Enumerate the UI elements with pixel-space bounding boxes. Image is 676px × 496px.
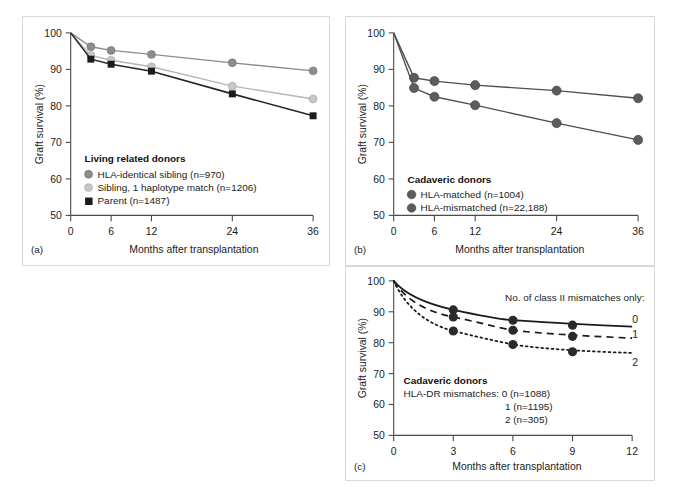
panel-c-xtick-9: 9	[570, 446, 576, 457]
panel-a-ytick-90: 90	[50, 64, 62, 75]
panel-c-class-ii-mismatches: 100 90 80 70 60 50 0 3 6 9 12 Graft surv…	[345, 266, 655, 481]
panel-c-xtick-6: 6	[510, 446, 516, 457]
panel-a-legend-title: Living related donors	[85, 153, 186, 164]
panel-a-xtick-0: 0	[68, 226, 74, 237]
panel-c-legend-line-2: 2 (n=305)	[505, 414, 548, 425]
panel-b-legend-marker-matched	[407, 190, 416, 199]
panel-c-chart: 100 90 80 70 60 50 0 3 6 9 12 Graft surv…	[346, 267, 654, 480]
panel-a-legend-label-2: Parent (n=1487)	[98, 195, 170, 206]
panel-a-legend-label-0: HLA-identical sibling (n=970)	[98, 169, 225, 180]
panel-b-xlabel: Months after transplantation	[455, 244, 584, 255]
panel-a-ylabel: Graft survival (%)	[34, 84, 45, 164]
panel-a-xtick-12: 12	[146, 226, 158, 237]
panel-b-legend-label-0: HLA-matched (n=1004)	[421, 189, 524, 200]
panel-c-ytick-60: 60	[373, 399, 385, 410]
panel-a-xtick-36: 36	[307, 226, 319, 237]
panel-c-curve-label-0: 0	[632, 314, 638, 325]
panel-c-x-ticks: 0 3 6 9 12	[391, 435, 638, 457]
panel-a-legend-label-1: Sibling, 1 haplotype match (n=1206)	[98, 182, 257, 193]
panel-c-legend-line-1: 1 (n=1195)	[505, 401, 553, 412]
panel-c-curve-label-1: 1	[632, 329, 638, 340]
panel-c-letter: (c)	[354, 461, 366, 472]
panel-a-legend-marker-parent	[85, 198, 92, 205]
panel-c-ytick-50: 50	[373, 430, 385, 441]
panel-a-ytick-70: 70	[50, 137, 62, 148]
panel-c-legend-title: Cadaveric donors	[404, 375, 488, 386]
panel-b-ytick-60: 60	[373, 174, 385, 185]
panel-c-xtick-3: 3	[450, 446, 456, 457]
panel-b-xtick-12: 12	[469, 226, 481, 237]
panel-c-ylabel: Graft survival (%)	[357, 318, 368, 398]
panel-b-xtick-0: 0	[391, 226, 397, 237]
panel-a-ytick-100: 100	[44, 28, 62, 39]
panel-b-series-hla-matched-line	[394, 33, 638, 98]
panel-b-legend: Cadaveric donors HLA-matched (n=1004) HL…	[407, 174, 547, 214]
panel-a-ytick-50: 50	[50, 210, 62, 221]
panel-a-series-haplotype-line	[71, 33, 313, 99]
panel-a-xtick-6: 6	[108, 226, 114, 237]
panel-a-x-ticks: 0 6 12 24 36	[68, 215, 319, 237]
panel-a-series-hla-identical-line	[71, 33, 313, 71]
panel-c-legend-line-0: HLA-DR mismatches: 0 (n=1088)	[404, 388, 550, 399]
panel-c-xlabel: Months after transplantation	[452, 461, 581, 472]
panel-a-series-parent-line	[71, 33, 313, 116]
panel-a-xlabel: Months after transplantation	[129, 244, 258, 255]
panel-b-ytick-100: 100	[367, 28, 385, 39]
panel-b-legend-label-1: HLA-mismatched (n=22,188)	[421, 202, 548, 213]
panel-b-xtick-6: 6	[432, 226, 438, 237]
panel-a-series-parent-markers	[87, 56, 316, 120]
panel-a-xtick-24: 24	[227, 226, 239, 237]
panel-b-x-ticks: 0 6 12 24 36	[391, 215, 644, 237]
panel-c-curve-label-2: 2	[632, 357, 638, 368]
panel-c-xtick-0: 0	[391, 446, 397, 457]
panel-c-legend: Cadaveric donors HLA-DR mismatches: 0 (n…	[404, 375, 553, 425]
panel-a-living-related-donors: 100 90 80 70 60 50 0 6 12 24 36 Graft su…	[22, 16, 330, 266]
panel-c-ytick-90: 90	[373, 307, 385, 318]
panel-b-ytick-70: 70	[373, 137, 385, 148]
panel-a-y-ticks: 100 90 80 70 60 50	[44, 28, 70, 222]
panel-b-xtick-24: 24	[551, 226, 563, 237]
panel-a-ytick-60: 60	[50, 174, 62, 185]
panel-b-series-hla-mismatched-line	[394, 33, 638, 140]
panel-b-cadaveric-donors: 100 90 80 70 60 50 0 6 12 24 36 Graft su…	[345, 16, 655, 266]
panel-c-xtick-12: 12	[626, 446, 638, 457]
panel-c-annotation: No. of class II mismatches only:	[505, 292, 644, 303]
panel-b-y-ticks: 100 90 80 70 60 50	[367, 28, 393, 222]
panel-b-ytick-50: 50	[373, 210, 385, 221]
panel-b-letter: (b)	[354, 244, 366, 255]
panel-a-legend-marker-hla-identical	[85, 170, 93, 178]
panel-a-legend: Living related donors HLA-identical sibl…	[85, 153, 257, 207]
panel-a-letter: (a)	[31, 244, 43, 255]
panel-a-chart: 100 90 80 70 60 50 0 6 12 24 36 Graft su…	[23, 17, 329, 265]
panel-b-legend-marker-mismatched	[407, 204, 416, 213]
panel-a-legend-marker-haplotype	[85, 184, 93, 192]
panel-b-ytick-90: 90	[373, 64, 385, 75]
panel-c-y-ticks: 100 90 80 70 60 50	[367, 276, 393, 442]
panel-b-ytick-80: 80	[373, 101, 385, 112]
panel-c-ytick-80: 80	[373, 338, 385, 349]
panel-b-ylabel: Graft survival (%)	[357, 84, 368, 164]
panel-b-xtick-36: 36	[632, 226, 644, 237]
panel-a-series-hla-identical-markers	[87, 43, 317, 75]
panel-c-ytick-100: 100	[367, 276, 385, 287]
panel-c-ytick-70: 70	[373, 369, 385, 380]
panel-b-legend-title: Cadaveric donors	[408, 174, 492, 185]
panel-a-ytick-80: 80	[50, 101, 62, 112]
panel-b-chart: 100 90 80 70 60 50 0 6 12 24 36 Graft su…	[346, 17, 654, 265]
panel-b-series-hla-mismatched-markers	[409, 83, 642, 144]
